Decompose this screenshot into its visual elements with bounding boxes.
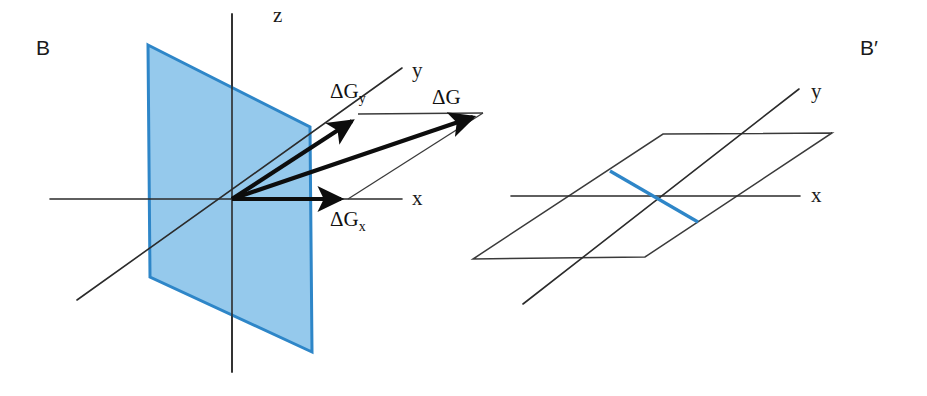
vector-label-delta-g-y-main: ΔG xyxy=(330,79,359,103)
axis-label-x-left: x xyxy=(412,186,423,210)
vector-label-delta-g-y: ΔGy xyxy=(330,79,366,106)
vector-label-delta-g-x: ΔGx xyxy=(330,207,366,234)
vector-label-delta-g-x-main: ΔG xyxy=(330,207,359,231)
vector-label-delta-g-main: ΔG xyxy=(432,85,461,109)
panel-label-b-prime: B′ xyxy=(860,36,878,59)
vector-label-delta-g: ΔG xyxy=(432,85,461,109)
panel-left: B z y x ΔGy ΔG ΔGx xyxy=(36,3,483,372)
axis-label-y-left: y xyxy=(412,58,423,82)
guide-line-top xyxy=(358,113,483,114)
axis-label-z: z xyxy=(273,3,282,27)
axis-label-y-right: y xyxy=(811,79,822,103)
axis-label-x-right: x xyxy=(811,183,822,207)
panel-right: B′ y x xyxy=(473,36,878,304)
figure-container: B z y x ΔGy ΔG ΔGx xyxy=(0,0,927,396)
vector-label-delta-g-y-sub: y xyxy=(359,91,366,106)
vector-decomposition-diagram: B z y x ΔGy ΔG ΔGx xyxy=(0,0,927,396)
vector-label-delta-g-x-sub: x xyxy=(359,219,366,234)
panel-label-b: B xyxy=(36,36,50,59)
